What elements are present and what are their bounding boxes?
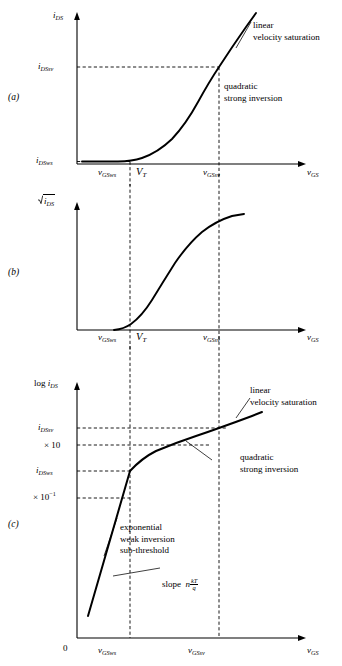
panel-a-y-tick-idsws: iDSws <box>36 155 53 166</box>
panel-c-x-tick-vgssv-sub: GSsv <box>192 649 205 656</box>
panel-c-y-tick-times10: × 10 <box>44 440 60 451</box>
mosfet-transfer-characteristics-figure: (a) iDS iDSsv iDSws vGSws VT vGSsv vGS l… <box>0 0 342 666</box>
panel-c-annotation-linear-line1: linear <box>250 385 317 397</box>
panel-a-y-tick-idssv-sub: DSsv <box>41 65 54 72</box>
panel-c-annotation-slope-label: slope <box>162 579 181 589</box>
panel-b-y-axis-label: iDS <box>38 194 55 207</box>
panel-c-annotation-quadratic-line2: strong inversion <box>240 464 298 476</box>
panel-c-annotation-exponential: exponential weak inversion sub-threshold <box>120 522 175 557</box>
panel-b-x-axis-label: vGS <box>307 332 319 343</box>
sqrt-radical-icon <box>38 195 43 204</box>
panel-c-y-tick-times10-neg1-base: × 10 <box>33 492 49 502</box>
panel-c-y-tick-times10-neg1-exp: −1 <box>49 490 56 497</box>
sqrt-icon: iDS <box>38 194 55 207</box>
panel-c-x-tick-vgsws: vGSws <box>98 645 116 656</box>
panel-c-annotation-slope-fraction: kTq <box>190 578 198 592</box>
panel-b-plot <box>0 190 342 350</box>
panel-c-annotation-exponential-line3: sub-threshold <box>120 545 175 557</box>
panel-a-x-tick-vt-sub: T <box>142 171 146 179</box>
panel-c-x-tick-vgssv: vGSsv <box>188 645 205 656</box>
panel-c-annotation-quadratic-line1: quadratic <box>240 452 298 464</box>
panel-c-annotation-slope: slope nkTq <box>162 578 198 592</box>
panel-a-y-tick-idssv: iDSsv <box>38 61 53 72</box>
panel-a-annotation-linear-line2: velocity saturation <box>253 32 320 44</box>
panel-a-y-tick-idsws-sub: DSws <box>39 159 53 166</box>
panel-c-annotation-exponential-line1: exponential <box>120 522 175 534</box>
panel-a-annotation-quadratic-line1: quadratic <box>224 81 282 93</box>
panel-b-x-tick-vgsws: vGSws <box>98 332 116 343</box>
panel-c-x-tick-vgsws-sub: GSws <box>102 649 116 656</box>
panel-c-annotation-quadratic: quadratic strong inversion <box>240 452 298 475</box>
panel-c-annotation-slope-denominator: q <box>190 585 198 592</box>
panel-a-id: (a) <box>8 92 19 102</box>
panel-c-x-tick-zero: 0 <box>63 643 68 654</box>
panel-b-y-axis-label-sub: DS <box>47 200 55 207</box>
panel-b-id: (b) <box>8 267 19 277</box>
panel-c-x-axis-label: vGS <box>307 645 319 656</box>
panel-b-y-axis-radicand: iDS <box>43 194 55 207</box>
panel-b-x-axis-label-sub: GS <box>311 336 319 343</box>
panel-c-y-tick-idssv-sub: DSsv <box>41 426 54 433</box>
panel-c-y-axis-label-sub: DS <box>50 382 58 389</box>
panel-c-y-tick-idsws: iDSws <box>36 465 53 476</box>
panel-c-y-axis-label: log iDS <box>34 378 58 389</box>
panel-a-y-axis-label: iDS <box>53 10 63 21</box>
panel-a-x-axis-label-sub: GS <box>311 171 319 178</box>
panel-b-x-tick-vgssv: vGSsv <box>203 332 220 343</box>
panel-a-annotation-quadratic-line2: strong inversion <box>224 93 282 105</box>
panel-a-x-tick-vgssv-sub: GSsv <box>207 171 220 178</box>
panel-c-y-tick-idssv: iDSsv <box>38 422 53 433</box>
panel-c-annotation-linear-line2: velocity saturation <box>250 397 317 409</box>
panel-a-x-tick-vgsws: vGSws <box>98 167 116 178</box>
panel-a-annotation-quadratic: quadratic strong inversion <box>224 81 282 104</box>
panel-c-annotation-linear: linear velocity saturation <box>250 385 317 408</box>
panel-b-x-tick-vt-sub: T <box>142 336 146 344</box>
panel-c-y-tick-idsws-sub: DSws <box>39 469 53 476</box>
panel-a-annotation-linear-line1: linear <box>253 20 320 32</box>
panel-b-x-tick-vgssv-sub: GSsv <box>207 336 220 343</box>
panel-a-annotation-linear: linear velocity saturation <box>253 20 320 43</box>
panel-c-id: (c) <box>8 519 19 529</box>
panel-b-x-tick-vgsws-sub: GSws <box>102 336 116 343</box>
panel-b-x-tick-vt: VT <box>136 330 146 343</box>
panel-c-y-axis-log-prefix: log <box>34 378 46 388</box>
panel-c-x-axis-label-sub: GS <box>311 649 319 656</box>
panel-a-y-axis-label-sub: DS <box>56 14 64 21</box>
panel-a-x-tick-vt: VT <box>136 165 146 178</box>
panel-a-x-axis-label: vGS <box>307 167 319 178</box>
panel-c-y-tick-times10-neg1: × 10−1 <box>33 492 56 503</box>
panel-a-x-tick-vgssv: vGSsv <box>203 167 220 178</box>
panel-a-x-tick-vgsws-sub: GSws <box>102 171 116 178</box>
panel-c-annotation-exponential-line2: weak inversion <box>120 534 175 546</box>
panel-c-plot <box>0 366 342 666</box>
